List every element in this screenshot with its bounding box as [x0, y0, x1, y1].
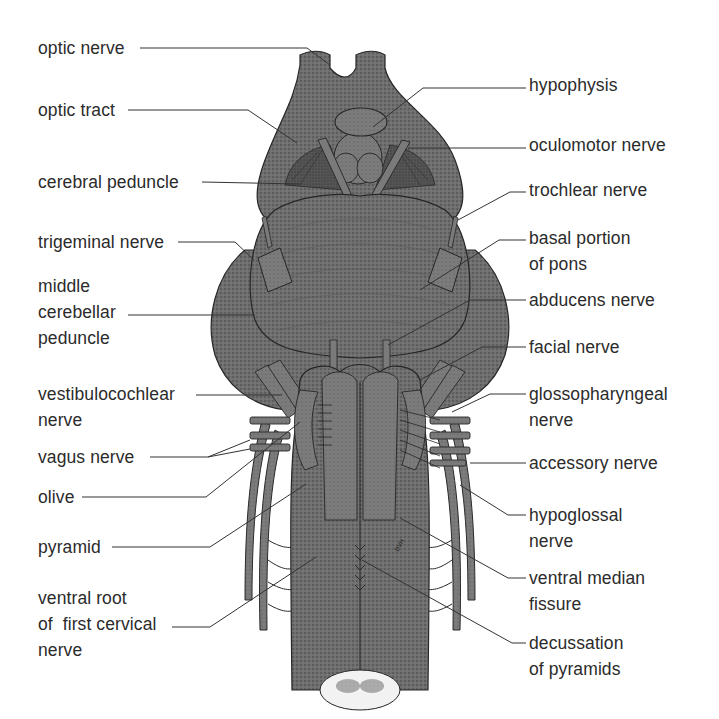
label-text: olive: [38, 484, 75, 510]
label-text: oculomotor nerve: [529, 132, 666, 158]
label-trigeminal-nerve: trigeminal nerve: [38, 229, 164, 255]
label-text: decussation: [529, 630, 624, 656]
spinal-cord-section: [320, 670, 400, 710]
label-optic-tract: optic tract: [38, 97, 115, 123]
label-text: hypoglossal: [529, 502, 623, 528]
label-text: peduncle: [38, 325, 116, 351]
label-text: cerebellar: [38, 299, 116, 325]
label-text: nerve: [529, 528, 623, 554]
label-cerebral-peduncle: cerebral peduncle: [38, 169, 179, 195]
label-text: of pons: [529, 251, 631, 277]
label-text: optic nerve: [38, 35, 125, 61]
label-text: cerebral peduncle: [38, 169, 179, 195]
label-accessory-nerve: accessory nerve: [529, 450, 658, 476]
label-text: nerve: [38, 637, 157, 663]
label-text: trigeminal nerve: [38, 229, 164, 255]
label-text: abducens nerve: [529, 287, 655, 313]
label-text: hypophysis: [529, 72, 618, 98]
label-text: pyramid: [38, 534, 101, 560]
label-text: trochlear nerve: [529, 177, 647, 203]
label-decussation-of-pyramids: decussation of pyramids: [529, 630, 624, 682]
label-text: of first cervical: [38, 611, 157, 637]
label-text: nerve: [38, 407, 175, 433]
label-facial-nerve: facial nerve: [529, 334, 620, 360]
label-text: accessory nerve: [529, 450, 658, 476]
label-pyramid: pyramid: [38, 534, 101, 560]
label-optic-nerve: optic nerve: [38, 35, 125, 61]
label-glossopharyngeal-nerve: glossopharyngeal nerve: [529, 381, 668, 433]
label-ventral-root-first-cervical-nerve: ventral root of first cervical nerve: [38, 585, 157, 663]
label-hypophysis: hypophysis: [529, 72, 618, 98]
label-vestibulocochlear-nerve: vestibulocochlear nerve: [38, 381, 175, 433]
label-text: optic tract: [38, 97, 115, 123]
label-vagus-nerve: vagus nerve: [38, 444, 134, 470]
label-trochlear-nerve: trochlear nerve: [529, 177, 647, 203]
label-text: vagus nerve: [38, 444, 134, 470]
label-basal-portion-of-pons: basal portion of pons: [529, 225, 631, 277]
label-text: of pyramids: [529, 656, 624, 682]
label-text: glossopharyngeal: [529, 381, 668, 407]
label-text: ventral root: [38, 585, 157, 611]
label-olive: olive: [38, 484, 75, 510]
label-text: ventral median: [529, 565, 645, 591]
label-text: vestibulocochlear: [38, 381, 175, 407]
label-oculomotor-nerve: oculomotor nerve: [529, 132, 666, 158]
label-text: basal portion: [529, 225, 631, 251]
label-text: fissure: [529, 591, 645, 617]
label-ventral-median-fissure: ventral median fissure: [529, 565, 645, 617]
label-middle-cerebellar-peduncle: middle cerebellar peduncle: [38, 273, 116, 351]
label-text: facial nerve: [529, 334, 620, 360]
label-text: middle: [38, 273, 116, 299]
label-hypoglossal-nerve: hypoglossal nerve: [529, 502, 623, 554]
label-abducens-nerve: abducens nerve: [529, 287, 655, 313]
label-text: nerve: [529, 407, 668, 433]
brainstem-diagram: DVH optic nerve optic tract cerebral ped…: [0, 0, 719, 719]
